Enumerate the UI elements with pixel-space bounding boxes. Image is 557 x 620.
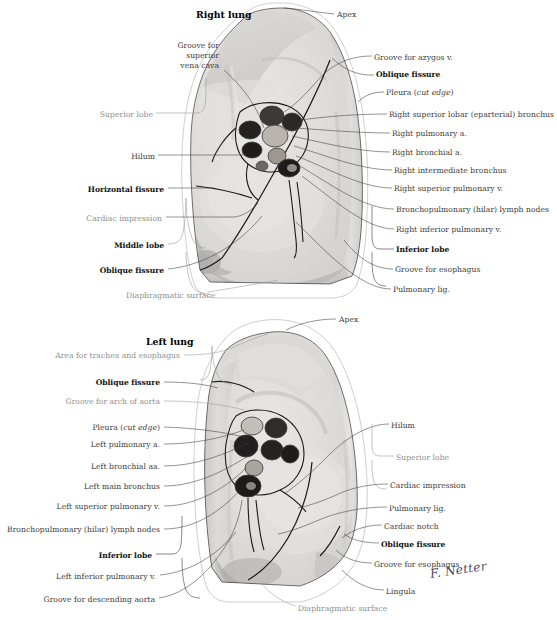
illustration-page: Right lung Groove forsuperiorvena cava S… <box>0 0 557 620</box>
left-lung-panel: Left lung Area for trachea and esophagus… <box>0 310 557 620</box>
right-lung-leader-lines <box>0 0 557 310</box>
right-lung-panel: Right lung Groove forsuperiorvena cava S… <box>0 0 557 310</box>
